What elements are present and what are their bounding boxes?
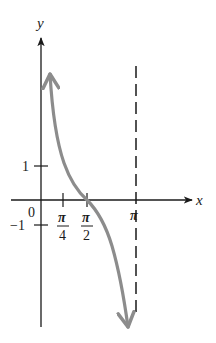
- y-axis-label: y: [35, 15, 44, 31]
- x-axis-label: x: [195, 192, 203, 208]
- x-tick-label-pi4-numerator: π: [58, 210, 66, 225]
- x-tick-label-pi2-denominator: 2: [83, 228, 90, 243]
- cotangent-graph: y x 0 1 −1 π 4 π 2 π: [0, 0, 216, 343]
- x-tick-label-pi4-denominator: 4: [59, 228, 66, 243]
- x-tick-label-pi2-numerator: π: [82, 210, 90, 225]
- x-tick-label-pi: π: [130, 208, 138, 223]
- origin-label: 0: [28, 205, 35, 220]
- y-tick-label-1: 1: [22, 159, 29, 174]
- y-tick-label-neg-1: −1: [10, 218, 25, 233]
